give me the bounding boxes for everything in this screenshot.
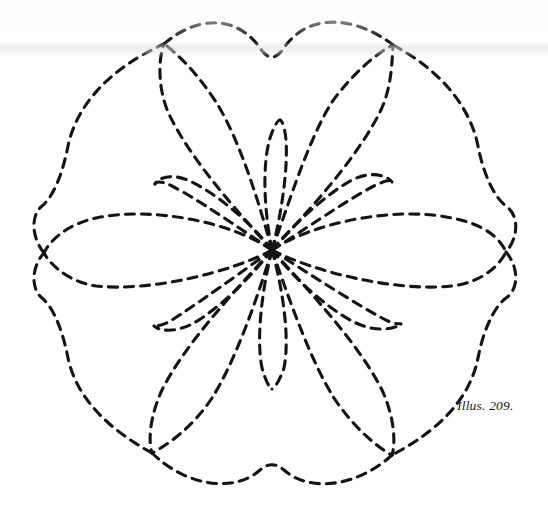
outline-right-lower-scallop <box>392 252 516 455</box>
outline-left-upper-scallop <box>34 44 164 253</box>
outline-left-lower-scallop <box>34 253 152 453</box>
inner-petal-lower-right-outer-edge <box>272 250 401 324</box>
figure-caption: Illus. 209. <box>457 398 514 414</box>
large-petal-upper-right-inner-edge <box>272 45 393 250</box>
inner-petal-down-left-edge <box>260 250 272 389</box>
large-petal-lower-left-outer-edge <box>150 250 272 453</box>
inner-petal-upper-right-outer-edge <box>272 181 392 250</box>
large-petal-left-lower-edge <box>44 250 272 287</box>
large-petal-upper-left-inner-edge <box>164 44 272 250</box>
quilting-pattern-figure <box>0 0 548 505</box>
illustration-page: Illus. 209. <box>0 0 548 505</box>
outline-top-scallop <box>164 22 393 57</box>
large-petal-upper-right-outer-edge <box>272 45 393 250</box>
outline-bottom-scallop <box>152 453 392 484</box>
outline-right-upper-scallop <box>393 45 516 252</box>
large-petal-lower-right-inner-edge <box>272 250 392 455</box>
large-petal-upper-left-outer-edge <box>160 44 272 250</box>
large-petal-lower-left-inner-edge <box>152 250 272 453</box>
large-petal-lower-right-outer-edge <box>272 250 394 455</box>
large-petal-right-upper-edge <box>272 214 506 252</box>
large-petal-right-lower-edge <box>272 250 506 287</box>
large-petal-left-upper-edge <box>44 214 272 253</box>
